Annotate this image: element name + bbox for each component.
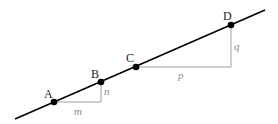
segment-p-label: p: [177, 69, 184, 81]
point-c-label: C: [126, 51, 134, 65]
segment-n-label: n: [104, 85, 110, 97]
point-d-label: D: [223, 9, 232, 23]
segment-m-label: m: [74, 105, 82, 117]
segment-q-label: q: [234, 40, 240, 52]
point-a-label: A: [44, 87, 53, 101]
point-b-label: B: [91, 67, 99, 81]
slope-diagram: A B C D m n p q: [0, 0, 278, 124]
